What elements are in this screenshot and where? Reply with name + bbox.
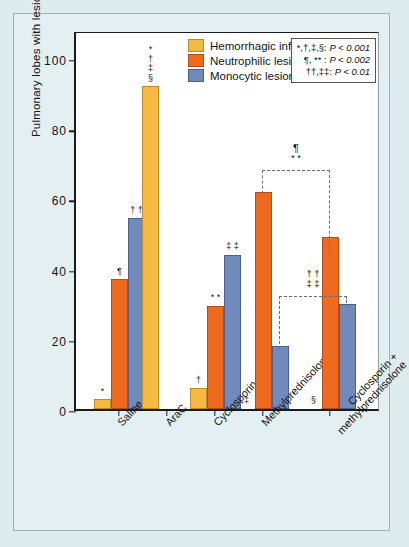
plot-panel: Pulmonary lobes with lesions, % 0 20 40 … — [74, 32, 379, 411]
bar-mark-saline-hemorrhagic: * — [94, 387, 111, 397]
legend-swatch-monocytic-icon — [188, 69, 204, 82]
bracket-monocytic-comparison — [279, 296, 347, 349]
y-tick-label: 0 — [59, 405, 67, 419]
y-tick-label: 20 — [52, 335, 67, 349]
pvalue-line-1: *,†,‡,§: P < 0.001 — [297, 42, 370, 54]
bar-mark-arac-hemorrhagic: * † ‡ § — [139, 45, 162, 83]
bracket-neutrophilic-comparison — [262, 170, 330, 254]
y-tick-label: 60 — [52, 194, 67, 208]
y-tick-80: 80 — [52, 124, 76, 138]
bar-mark-cyclosporin-neutrophilic: * * — [205, 293, 226, 303]
y-tick-label: 80 — [52, 124, 67, 138]
pvalue-symbols-3: ††,‡‡: — [306, 66, 332, 77]
y-tick-label: 100 — [44, 54, 67, 68]
y-tick-label: 40 — [52, 265, 67, 279]
bar-mark-cyclosporin-hemorrhagic: † — [190, 376, 207, 386]
legend-swatch-hemorrhagic-icon — [188, 39, 204, 52]
y-tick-40: 40 — [52, 265, 76, 279]
legend-swatch-neutrophilic-icon — [188, 54, 204, 67]
pvalue-line-2: ¶, ** : P < 0.002 — [297, 54, 370, 66]
bar-saline-hemorrhagic — [94, 399, 111, 410]
bar-arac-hemorrhagic — [142, 86, 159, 409]
bar-mark-saline-neutrophilic: ¶ — [111, 267, 128, 277]
legend-label-monocytic: Monocytic lesions — [210, 70, 301, 82]
pvalue-symbols-2: ¶, ** : — [304, 54, 327, 65]
pvalue-legend-box: *,†,‡,§: P < 0.001 ¶, ** : P < 0.002 ††,… — [291, 38, 376, 83]
bar-mark-methylprednisolone-hemorrhagic: ‡ — [238, 396, 255, 406]
bar-mark-cyclosporin-monocytic: ‡ ‡ — [222, 242, 243, 252]
pvalue-threshold-3: P < 0.01 — [335, 66, 370, 77]
bar-cyclosporin-neutrophilic — [207, 306, 224, 410]
bar-mark-combo-hemorrhagic: § — [305, 396, 322, 406]
bracket-marks-neutrophilic: ¶ * * — [262, 143, 330, 163]
y-tick-20: 20 — [52, 335, 76, 349]
y-tick-100: 100 — [44, 54, 76, 68]
y-tick-60: 60 — [52, 194, 76, 208]
pvalue-line-3: ††,‡‡: P < 0.01 — [297, 66, 370, 78]
y-tick-0: 0 — [59, 405, 76, 419]
bracket-marks-monocytic: † † ‡ ‡ — [279, 269, 347, 289]
plot-inner: * ¶ † † Saline * † ‡ § AraC † * * — [76, 33, 378, 409]
pvalue-threshold-2: P < 0.002 — [329, 54, 370, 65]
bar-saline-neutrophilic — [111, 279, 128, 409]
pvalue-threshold-1: P < 0.001 — [329, 42, 370, 53]
bar-cyclosporin-monocytic — [224, 255, 241, 409]
y-axis-label: Pulmonary lobes with lesions, % — [30, 0, 42, 137]
bar-cyclosporin-hemorrhagic — [190, 388, 207, 409]
pvalue-symbols-1: *,†,‡,§: — [297, 42, 327, 53]
